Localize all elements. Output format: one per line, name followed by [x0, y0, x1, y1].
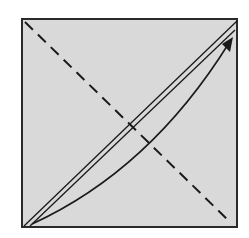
- origami-diagram: [0, 0, 249, 238]
